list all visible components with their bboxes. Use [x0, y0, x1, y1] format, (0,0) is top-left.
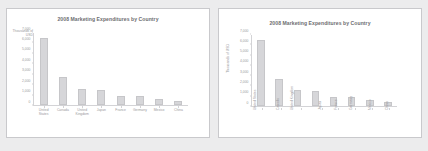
- y-tick-label: 4,000: [22, 59, 31, 62]
- bar: [174, 101, 182, 105]
- y-tick-label: 1,000: [240, 92, 249, 95]
- y-tick-label: 1,000: [22, 90, 31, 93]
- bar-slot: [361, 35, 379, 106]
- y-tick-mark: [32, 32, 34, 33]
- x-tick-mark: [338, 108, 339, 110]
- plot-area-right: 01,0002,0003,0004,0005,0006,0007,000: [251, 35, 397, 107]
- y-tick-label: 0: [29, 101, 31, 104]
- y-tick-label: 3,000: [240, 71, 249, 74]
- plot-area-left: 01,0002,0003,0004,0005,0006,0007,000: [33, 33, 188, 106]
- bar-slot: [92, 33, 111, 105]
- y-tick-label: 4,000: [240, 61, 249, 64]
- y-tick-label: 7,000: [22, 28, 31, 31]
- x-label-slot: Canada: [272, 110, 289, 113]
- bar-slot: [111, 33, 130, 105]
- y-tick-mark: [250, 54, 252, 55]
- x-label-slot: Germany: [347, 110, 364, 113]
- charts-workspace: 2008 Marketing Expenditures by Country T…: [0, 0, 428, 151]
- bar: [117, 96, 125, 105]
- y-tick-label: 2,000: [240, 81, 249, 84]
- x-tick-label: United States: [35, 108, 52, 117]
- x-label-slot: United States: [252, 110, 272, 113]
- bar: [97, 90, 105, 105]
- bar-slot: [34, 33, 53, 105]
- y-tick-label: 2,000: [22, 80, 31, 83]
- bar-slot: [169, 33, 188, 105]
- bar: [155, 99, 163, 105]
- x-tick-mark: [178, 106, 179, 108]
- y-tick-mark: [250, 85, 252, 86]
- x-tick-label: Japan: [93, 108, 110, 117]
- y-tick-mark: [250, 64, 252, 65]
- x-tick-mark: [159, 106, 160, 108]
- y-tick-label: 0: [247, 102, 249, 105]
- bar-slot: [53, 33, 72, 105]
- y-tick-mark: [32, 73, 34, 74]
- bar-slot: [73, 33, 92, 105]
- x-tick-mark: [281, 108, 282, 110]
- x-axis-line-left: [33, 105, 188, 106]
- bar-slot: [379, 35, 397, 106]
- x-tick-label: Mexico: [151, 108, 168, 117]
- y-tick-mark: [32, 84, 34, 85]
- x-label-slot: Germany: [130, 108, 149, 117]
- chart-title-right: 2008 Marketing Expenditures by Country: [219, 21, 421, 26]
- x-tick-label: Germany: [350, 96, 353, 110]
- chart-title-left: 2008 Marketing Expenditures by Country: [7, 17, 209, 22]
- bar-slot: [306, 35, 324, 106]
- bar: [40, 38, 48, 105]
- bar-slot: [270, 35, 288, 106]
- chart-panel-right: 2008 Marketing Expenditures by Country T…: [218, 8, 422, 138]
- x-label-slot: Canada: [53, 108, 72, 117]
- x-tick-mark: [301, 108, 302, 110]
- x-tick-label: Germany: [131, 108, 148, 117]
- y-tick-mark: [250, 34, 252, 35]
- bar-slot: [150, 33, 169, 105]
- x-tick-label: Japan: [319, 101, 322, 110]
- x-tick-mark: [355, 108, 356, 110]
- x-tick-mark: [82, 106, 83, 108]
- bar-slot: [130, 33, 149, 105]
- bar: [78, 89, 86, 105]
- y-tick-mark: [250, 106, 252, 107]
- x-label-slot: France: [330, 110, 347, 113]
- x-label-slot: France: [111, 108, 130, 117]
- x-label-slot: Mexico: [150, 108, 169, 117]
- bar-slot: [325, 35, 343, 106]
- x-label-slot: China: [169, 108, 188, 117]
- x-label-slot: China: [380, 110, 397, 113]
- bar: [257, 40, 265, 106]
- x-tick-label: Canada: [277, 98, 280, 110]
- y-tick-label: 7,000: [240, 30, 249, 33]
- x-tick-mark: [262, 108, 263, 110]
- x-tick-label: United Kingdom: [74, 108, 91, 117]
- x-axis-line-right: [251, 106, 397, 107]
- bar-series-right: [252, 35, 397, 106]
- x-tick-mark: [101, 106, 102, 108]
- y-tick-mark: [250, 95, 252, 96]
- y-tick-mark: [32, 63, 34, 64]
- y-tick-mark: [32, 105, 34, 106]
- y-tick-label: 5,000: [240, 50, 249, 53]
- y-tick-label: 6,000: [22, 38, 31, 41]
- y-axis-label-right: Thousands of USD: [227, 44, 230, 73]
- chart-panel-left: 2008 Marketing Expenditures by Country T…: [6, 8, 210, 138]
- x-tick-label: China: [170, 108, 187, 117]
- x-label-slot: United States: [34, 108, 53, 117]
- x-tick-mark: [121, 106, 122, 108]
- y-tick-mark: [250, 75, 252, 76]
- bar: [294, 90, 302, 106]
- y-tick-label: 3,000: [22, 70, 31, 73]
- x-label-slot: United Kingdom: [73, 108, 92, 117]
- x-tick-label: China: [386, 101, 389, 110]
- bar-series-left: [34, 33, 188, 105]
- y-tick-label: 6,000: [240, 40, 249, 43]
- y-tick-mark: [32, 94, 34, 95]
- x-label-slot: Japan: [92, 108, 111, 117]
- x-label-slot: Mexico: [364, 110, 381, 113]
- x-axis-labels-right: United StatesCanadaUnited KingdomJapanFr…: [252, 110, 397, 113]
- x-tick-label: Canada: [54, 108, 71, 117]
- y-tick-mark: [250, 44, 252, 45]
- x-tick-mark: [63, 106, 64, 108]
- x-tick-label: United States: [254, 90, 257, 110]
